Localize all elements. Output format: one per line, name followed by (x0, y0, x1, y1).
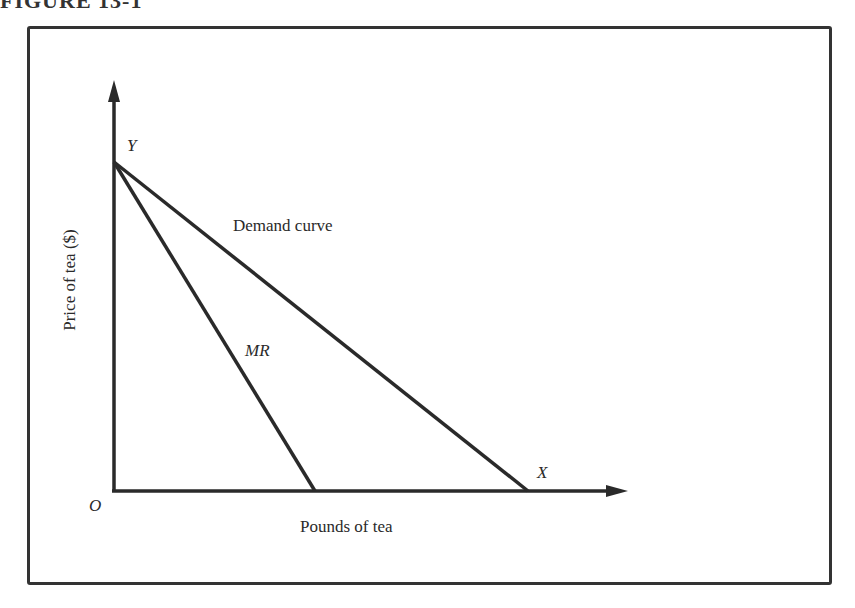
chart-plot (0, 0, 855, 608)
y-axis-arrow-icon (108, 80, 120, 102)
mr-label: MR (245, 341, 270, 361)
x-intercept-label: X (537, 463, 547, 483)
y-intercept-label: Y (127, 136, 136, 156)
x-axis-arrow-icon (606, 485, 628, 497)
demand-curve-line (114, 162, 528, 491)
demand-curve-label: Demand curve (233, 216, 333, 236)
origin-label: O (89, 496, 101, 516)
y-axis-label: Price of tea ($) (60, 200, 80, 360)
mr-curve-line (114, 162, 315, 491)
x-axis-label: Pounds of tea (300, 517, 393, 537)
